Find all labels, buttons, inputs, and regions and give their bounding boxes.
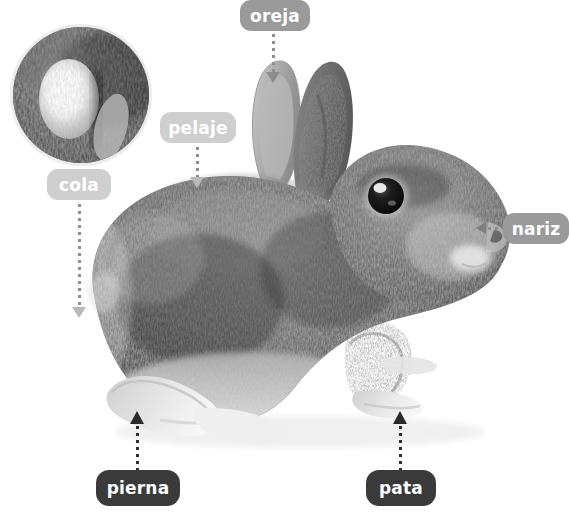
diagram-canvas: oreja pelaje cola nariz pierna pata [0,0,569,518]
label-pelaje[interactable]: pelaje [160,112,236,143]
connector-pelaje [196,145,199,177]
label-oreja[interactable]: oreja [240,0,310,31]
label-pata[interactable]: pata [366,470,436,506]
arrowhead-pierna [130,411,144,424]
rabbit-body [64,160,520,440]
label-pierna[interactable]: pierna [96,470,180,506]
connector-cola [78,202,81,307]
arrowhead-cola [72,307,86,318]
arrowhead-nariz [476,222,486,234]
rabbit-limbs [107,322,438,445]
connector-pierna [136,424,139,470]
label-cola[interactable]: cola [47,169,111,200]
rabbit-eye [364,175,408,217]
arrowhead-oreja [266,72,280,83]
connector-nariz [486,227,504,230]
tail-closeup-inset [13,27,149,163]
connector-oreja [272,32,275,72]
rabbit-head [320,130,530,315]
arrowhead-pelaje [190,177,204,188]
connector-pata [399,424,402,470]
label-nariz[interactable]: nariz [503,213,569,244]
arrowhead-pata [393,411,407,424]
rabbit-tail [88,272,120,312]
